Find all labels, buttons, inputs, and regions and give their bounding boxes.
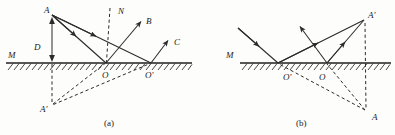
label-C: C bbox=[174, 37, 181, 47]
label-Oprime-b: O' bbox=[283, 72, 292, 82]
label-B: B bbox=[146, 16, 152, 26]
label-M-a: M bbox=[7, 50, 16, 60]
reflected-ray-O-to-B bbox=[106, 22, 141, 64]
ray-diagram-svg: A N B C D M O O' A' (a) bbox=[0, 0, 395, 135]
label-Oprime-a: O' bbox=[145, 70, 154, 80]
panel-b: A' M O' O A (b) bbox=[225, 10, 391, 128]
dimension-D-arrow-down bbox=[49, 55, 55, 62]
reflected-ray-O-to-Aprime-arrow bbox=[327, 42, 345, 63]
label-A-a: A bbox=[43, 5, 50, 15]
label-Aprime-a: A' bbox=[39, 104, 48, 114]
incident-ray-A-to-O-arrow bbox=[52, 15, 76, 36]
reflected-ray-Oprime-to-Aprime-arrow bbox=[278, 43, 318, 63]
figure-root: A N B C D M O O' A' (a) bbox=[0, 0, 395, 135]
mirror-hatching-b bbox=[242, 64, 390, 70]
label-D: D bbox=[33, 42, 41, 52]
label-O-b: O bbox=[319, 72, 326, 82]
dimension-D-arrow-up bbox=[49, 17, 55, 24]
reflected-ray-Oprime-to-C bbox=[151, 41, 168, 64]
axis-Aprime-to-A bbox=[365, 23, 366, 109]
normal-line-N bbox=[107, 8, 111, 62]
label-N: N bbox=[117, 6, 125, 16]
panel-a: A N B C D M O O' A' (a) bbox=[6, 5, 192, 128]
label-M-b: M bbox=[225, 50, 234, 60]
label-A-b: A bbox=[371, 112, 378, 122]
caption-b: (b) bbox=[296, 118, 307, 128]
virtual-ray-A-Oprime bbox=[279, 64, 365, 110]
caption-a: (a) bbox=[104, 118, 114, 128]
incident-ray-A-to-Oprime-arrow bbox=[52, 15, 96, 36]
ray-O-upper-left bbox=[300, 27, 327, 64]
virtual-ray-Aprime-O bbox=[53, 64, 105, 105]
label-Aprime-b: A' bbox=[367, 10, 376, 20]
incident-ray-b-1-arrow bbox=[238, 28, 259, 46]
label-O-a: O bbox=[102, 70, 109, 80]
virtual-ray-A-O bbox=[327, 64, 365, 110]
